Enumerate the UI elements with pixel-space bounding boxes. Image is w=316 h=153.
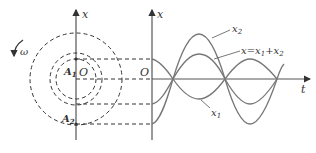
phasor-axis-label: x <box>82 8 89 21</box>
superposition-diagram: x ω O A1 A2 x t O x2 x=x1+x2 x1 <box>0 0 316 153</box>
waveform-y-label: x <box>157 8 164 21</box>
waveform-origin-label: O <box>140 66 149 79</box>
time-label: t <box>301 83 306 96</box>
sum-label: x=x1+x2 <box>241 45 284 58</box>
a1-label: A1 <box>63 66 77 79</box>
x1-label: x1 <box>211 107 221 120</box>
waveform-panel <box>152 10 310 140</box>
phasor-origin-label: O <box>79 66 88 79</box>
omega-label: ω <box>20 46 28 57</box>
x2-label: x2 <box>232 23 243 36</box>
